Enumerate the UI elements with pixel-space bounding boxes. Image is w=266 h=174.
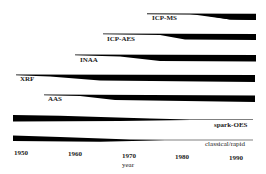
band-xrf — [16, 75, 255, 82]
band-inaa — [75, 55, 256, 62]
tick-1970: 1970 — [122, 153, 136, 160]
label-xrf: XRF — [20, 76, 34, 83]
tick-1990: 1990 — [229, 155, 243, 162]
label-classical-rapid: classical/rapid — [205, 141, 245, 148]
label-aas: AAS — [48, 96, 62, 103]
label-icp-aes: ICP-AES — [107, 36, 135, 43]
label-spark-oes: spark-OES — [214, 122, 247, 129]
label-inaa: INAA — [80, 57, 98, 64]
band-aas — [44, 95, 255, 102]
tick-1950: 1950 — [14, 150, 28, 157]
label-icp-ms: ICP-MS — [152, 15, 177, 22]
tick-1960: 1960 — [68, 151, 82, 158]
tick-1980: 1980 — [175, 154, 189, 161]
axis-title: year — [122, 162, 134, 169]
